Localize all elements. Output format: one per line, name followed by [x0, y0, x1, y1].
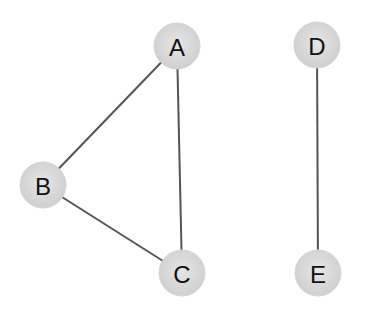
node-label: E	[310, 261, 326, 288]
node-d: D	[294, 22, 340, 68]
edge-a-b	[43, 46, 177, 185]
node-c: C	[159, 250, 205, 296]
edge-a-c	[177, 46, 182, 273]
node-label: C	[173, 261, 190, 288]
node-label: B	[35, 173, 51, 200]
node-e: E	[295, 250, 341, 296]
edges-layer	[43, 45, 318, 273]
node-label: D	[308, 33, 325, 60]
graph-diagram: ABCDE	[0, 0, 367, 314]
edge-d-e	[317, 45, 318, 273]
node-label: A	[169, 34, 185, 61]
node-a: A	[154, 23, 200, 69]
node-b: B	[20, 162, 66, 208]
graph-canvas: ABCDE	[0, 0, 367, 314]
edge-b-c	[43, 185, 182, 273]
